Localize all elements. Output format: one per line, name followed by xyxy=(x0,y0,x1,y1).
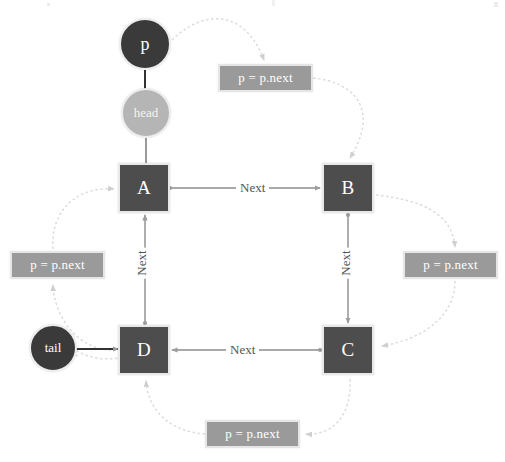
pointer-head-label: head xyxy=(134,105,159,121)
step-label-top-text: p = p.next xyxy=(238,70,292,86)
step-label-bottom-text: p = p.next xyxy=(225,426,279,442)
diagram-canvas: A B C D p head tail p = p.next p = p.nex… xyxy=(0,0,505,462)
node-d-label: D xyxy=(137,339,151,361)
curve-p-to-top-label xyxy=(172,19,264,60)
node-c-label: C xyxy=(341,339,354,361)
node-b[interactable]: B xyxy=(322,163,374,213)
pointer-p-label: p xyxy=(141,34,150,55)
curve-right-label-to-c xyxy=(382,281,455,346)
node-c[interactable]: C xyxy=(322,325,374,375)
curve-bottom-label-to-d xyxy=(146,381,205,434)
node-b-label: B xyxy=(341,177,354,199)
edge-label-c-d: Next xyxy=(226,342,259,358)
scan-artifact-center xyxy=(272,0,275,6)
edge-label-a-b: Next xyxy=(236,180,269,196)
node-a-label: A xyxy=(137,177,151,199)
node-a[interactable]: A xyxy=(118,163,170,213)
node-d[interactable]: D xyxy=(118,325,170,375)
step-label-left-text: p = p.next xyxy=(30,257,84,273)
curve-c-to-bottom-label xyxy=(306,379,350,434)
curve-top-label-to-b xyxy=(313,78,363,158)
pointer-tail[interactable]: tail xyxy=(29,324,77,372)
scan-artifact-right xyxy=(494,2,498,7)
scan-artifact-left xyxy=(47,3,50,6)
curve-b-to-right-label xyxy=(376,195,455,247)
curve-left-label-to-a xyxy=(53,189,114,249)
step-label-right-text: p = p.next xyxy=(423,257,477,273)
pointer-p[interactable]: p xyxy=(119,18,171,70)
step-label-left[interactable]: p = p.next xyxy=(10,251,105,279)
pointer-head[interactable]: head xyxy=(121,88,171,138)
step-label-top[interactable]: p = p.next xyxy=(218,64,313,92)
edge-label-b-c: Next xyxy=(338,247,354,278)
edge-label-d-a: Next xyxy=(134,247,150,278)
step-label-right[interactable]: p = p.next xyxy=(403,251,498,279)
pointer-tail-label: tail xyxy=(45,340,62,356)
step-label-bottom[interactable]: p = p.next xyxy=(205,420,300,448)
